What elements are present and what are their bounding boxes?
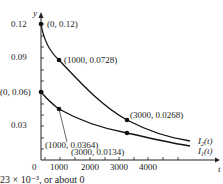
x-tick-label: 4000 xyxy=(139,162,158,172)
y-tick-label: 0.09 xyxy=(11,52,27,62)
x-axis-arrow-icon xyxy=(215,158,220,163)
series-line-I2 xyxy=(41,24,190,141)
y-axis-label: y xyxy=(32,8,37,18)
point-annotation: (3000, 0.0134) xyxy=(71,147,124,157)
y-tick-label: 0.12 xyxy=(11,19,27,29)
x-tick-label: 3000 xyxy=(110,162,129,172)
leader-line xyxy=(59,109,67,142)
point-annotation: (0, 0.06) xyxy=(0,87,31,97)
legend-I1: I1(t) xyxy=(197,146,213,157)
y-tick-label: 0.03 xyxy=(11,120,27,130)
point-annotation: (3000, 0.0268) xyxy=(130,110,183,120)
y-axis-arrow-icon xyxy=(39,12,44,18)
chart: y t 0.03 0.09 0.12 0 1000 2000 3000 4000 xyxy=(0,0,223,184)
x-axis-label: t xyxy=(218,164,221,174)
data-point xyxy=(39,90,44,95)
point-annotation: (1000, 0.0728) xyxy=(64,55,117,65)
x-tick-label: 1000 xyxy=(50,162,69,172)
x-tick-label: 0 xyxy=(32,162,37,172)
data-point xyxy=(125,118,130,123)
data-point xyxy=(125,131,130,136)
caption-text: 23 × 10⁻³, or about 0 xyxy=(0,174,84,184)
point-annotation: (0, 0.12) xyxy=(47,19,78,29)
data-point xyxy=(57,58,62,63)
x-tick-label: 2000 xyxy=(81,162,100,172)
data-point xyxy=(39,22,44,27)
